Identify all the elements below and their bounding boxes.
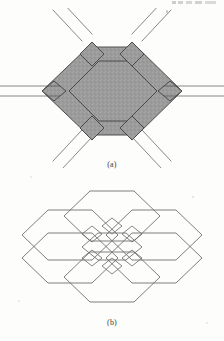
lattice-coupler-group: [82, 218, 142, 274]
hexagon-tile-lower-left: [22, 233, 118, 283]
figure-b-caption: (b): [0, 318, 224, 327]
figure-a-caption: (a): [0, 160, 224, 169]
hexagon-tile-lower-right: [106, 233, 202, 283]
figure-b: [0, 180, 224, 315]
lead-upper-right: [132, 8, 171, 41]
scanned-page: (a): [0, 0, 224, 341]
figure-b-drawing: [0, 180, 224, 315]
lead-right: [176, 86, 224, 96]
lead-upper-left: [53, 8, 92, 41]
hexagon-tile-bottom: [64, 252, 160, 302]
lattice-coupler-e: [102, 218, 122, 234]
hexagon-tile-center: [82, 233, 142, 260]
lead-left: [0, 86, 48, 96]
figure-a-drawing: [0, 8, 224, 168]
scan-speck: [30, 176, 32, 178]
scan-artifact-top-edge: [172, 1, 216, 4]
hexagon-tile-upper-left: [22, 210, 118, 260]
figure-a: [0, 8, 224, 158]
hexagon-tile-upper-right: [106, 210, 202, 260]
